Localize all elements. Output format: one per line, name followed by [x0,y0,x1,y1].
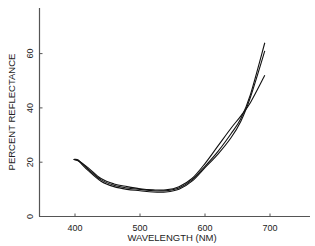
y-tick-label: 60 [25,49,35,59]
reflectance-chart: 0204060 400500600700 WAVELENGTH (NM) PER… [0,0,315,246]
data-series [74,43,265,193]
y-axis: 0204060 [25,8,43,219]
x-tick-label: 700 [262,223,277,233]
x-axis-label: WAVELENGTH (NM) [127,232,216,243]
y-tick-label: 0 [25,214,35,219]
reflectance-curve-curve-1 [74,43,265,191]
y-tick-label: 20 [25,157,35,167]
x-axis: 400500600700 [39,214,310,234]
y-axis-label: PERCENT REFLECTANCE [6,54,17,171]
x-tick-label: 400 [67,223,82,233]
reflectance-curve-curve-3 [74,75,265,190]
y-tick-label: 40 [25,103,35,113]
